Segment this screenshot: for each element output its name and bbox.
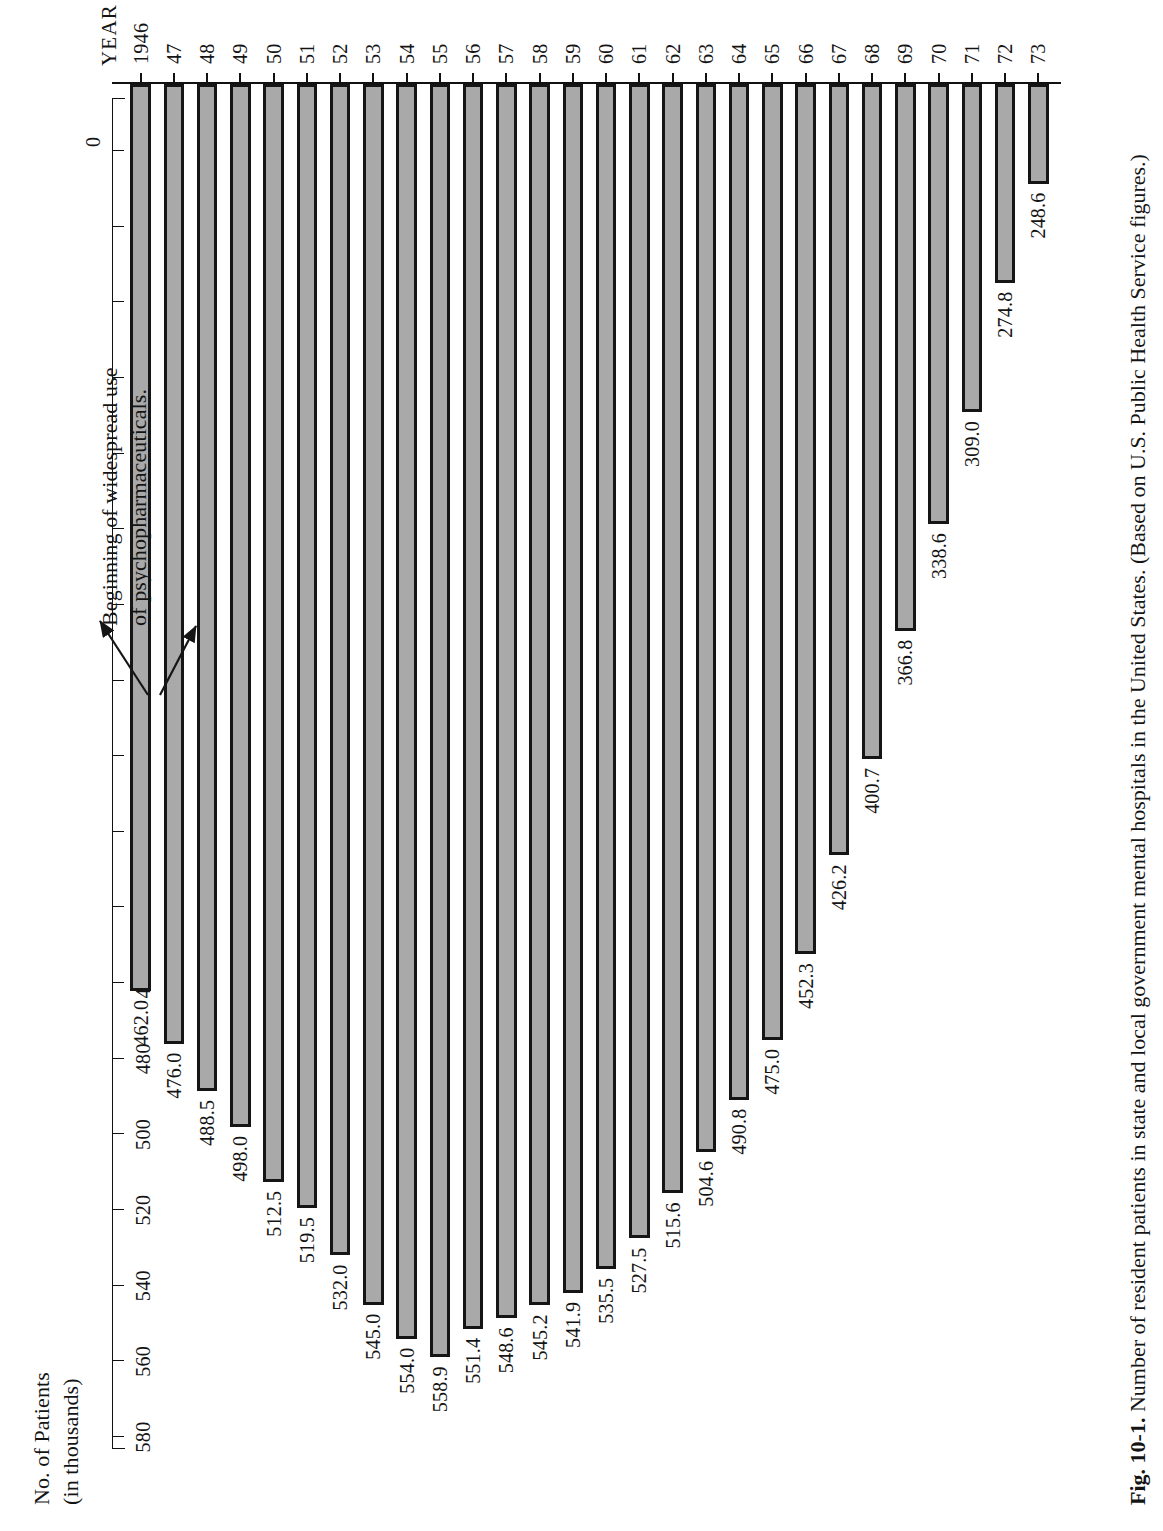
bar [762, 84, 783, 1040]
category-tick [638, 73, 640, 82]
category-label: 66 [794, 43, 817, 64]
bar [596, 84, 617, 1269]
bar [662, 84, 683, 1193]
value-tick-label: 560 [132, 1346, 155, 1377]
zero-tick-label: 0 [82, 137, 105, 147]
value-axis-title-line1: No. of Patients [29, 1372, 54, 1505]
bar [297, 84, 318, 1208]
bar [629, 84, 650, 1238]
category-tick [938, 73, 940, 82]
bar [463, 84, 484, 1329]
value-tick [113, 1360, 124, 1361]
category-label: 55 [428, 43, 451, 64]
value-axis-title-line2: (in thousands) [58, 1378, 83, 1505]
bar-value-label: 309.0 [960, 421, 983, 467]
bar-value-label: 490.8 [728, 1109, 751, 1155]
value-tick [113, 1285, 124, 1286]
category-tick [173, 73, 175, 82]
bar [430, 84, 451, 1357]
bar-value-label: 551.4 [462, 1338, 485, 1384]
bar [330, 84, 351, 1255]
bar [1028, 84, 1049, 184]
category-tick [140, 73, 142, 82]
bar-value-label: 426.2 [827, 864, 850, 910]
category-tick [904, 73, 906, 82]
bar [995, 84, 1016, 283]
value-tick-label: 580 [132, 1422, 155, 1453]
category-label: 53 [362, 43, 385, 64]
category-tick [372, 73, 374, 82]
bar [563, 84, 584, 1293]
value-tick [113, 755, 124, 756]
bar-value-label: 274.8 [994, 292, 1017, 338]
bar-value-label: 512.5 [262, 1191, 285, 1237]
category-tick [771, 73, 773, 82]
category-tick [505, 73, 507, 82]
bar [230, 84, 251, 1127]
bar [529, 84, 550, 1305]
value-tick [113, 1436, 124, 1437]
bar [263, 84, 284, 1182]
category-label: 58 [528, 43, 551, 64]
value-tick-label: 480 [132, 1043, 155, 1074]
category-label: 62 [661, 43, 684, 64]
category-label: 57 [495, 43, 518, 64]
category-label: 47 [162, 43, 185, 64]
value-axis-cap-right [112, 98, 125, 99]
value-tick [113, 1058, 124, 1059]
bar-value-label: 532.0 [329, 1264, 352, 1310]
bar [962, 84, 983, 412]
bar [164, 84, 185, 1044]
category-label: 67 [827, 43, 850, 64]
bar [496, 84, 517, 1318]
year-axis-label: YEAR [97, 4, 122, 66]
value-tick [113, 831, 124, 832]
category-tick [572, 73, 574, 82]
category-tick [672, 73, 674, 82]
category-tick [339, 73, 341, 82]
value-tick [113, 1133, 124, 1134]
bar-value-label: 476.0 [162, 1053, 185, 1099]
bar [396, 84, 417, 1339]
category-label: 56 [462, 43, 485, 64]
bar-value-label: 519.5 [295, 1217, 318, 1263]
bar-value-label: 504.6 [694, 1161, 717, 1207]
value-tick-label: 520 [132, 1195, 155, 1226]
bar-value-label: 248.6 [1027, 193, 1050, 239]
bar-value-label: 535.5 [595, 1278, 618, 1324]
bar-value-label: 338.6 [927, 533, 950, 579]
bar-value-label: 488.5 [196, 1100, 219, 1146]
figure-10-1: No. of Patients (in thousands) 580560540… [0, 0, 1163, 1531]
category-tick [838, 73, 840, 82]
category-tick [306, 73, 308, 82]
category-tick [273, 73, 275, 82]
value-tick [113, 150, 124, 151]
figure-caption: Fig. 10-1. Number of resident patients i… [1123, 35, 1153, 1505]
category-label: 52 [329, 43, 352, 64]
bar-value-label: 545.0 [362, 1314, 385, 1360]
bar-value-label: 548.6 [495, 1327, 518, 1373]
value-tick [113, 1209, 124, 1210]
category-tick [472, 73, 474, 82]
category-tick [439, 73, 441, 82]
category-tick [705, 73, 707, 82]
category-label: 68 [861, 43, 884, 64]
category-label: 65 [761, 43, 784, 64]
category-label: 69 [894, 43, 917, 64]
bar [928, 84, 949, 524]
caption-figure-number: Fig. 10-1. [1125, 1418, 1150, 1505]
category-label: 64 [728, 43, 751, 64]
value-axis-title: No. of Patients (in thousands) [28, 1372, 85, 1505]
bar-value-label: 545.2 [528, 1314, 551, 1360]
bar-value-label: 400.7 [861, 768, 884, 814]
category-label: 1946 [129, 23, 152, 64]
category-label: 54 [395, 43, 418, 64]
category-label: 51 [295, 43, 318, 64]
category-tick [406, 73, 408, 82]
annotation-text: Beginning of widespread use of psychopha… [96, 367, 153, 626]
value-tick-label: 500 [132, 1119, 155, 1150]
category-label: 60 [595, 43, 618, 64]
category-tick [605, 73, 607, 82]
bar-value-label: 475.0 [761, 1049, 784, 1095]
bar [729, 84, 750, 1100]
